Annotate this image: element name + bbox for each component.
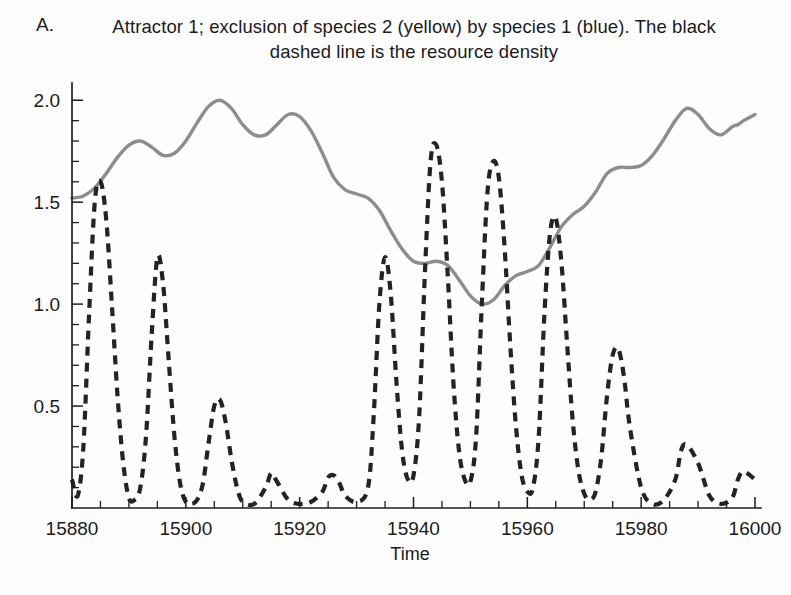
y-tick-label: 1.0 [34, 294, 60, 315]
species1-density-solid-line-0 [72, 100, 738, 304]
series-layer [72, 100, 755, 505]
tick-label-layer: 0.51.01.52.01588015900159201594015960159… [34, 90, 782, 539]
x-tick-label: 15880 [46, 518, 99, 539]
x-tick-label: 16000 [729, 518, 782, 539]
y-tick-label: 1.5 [34, 192, 60, 213]
resource-density-dashed-line-2 [72, 143, 755, 505]
x-tick-label: 15940 [387, 518, 440, 539]
y-tick-label: 0.5 [34, 396, 60, 417]
x-tick-label: 15920 [273, 518, 326, 539]
species1-density-solid-line-1 [738, 115, 755, 125]
x-tick-label: 15980 [615, 518, 668, 539]
chart-plot-area: 0.51.01.52.01588015900159201594015960159… [0, 0, 791, 595]
figure-panel-a: A. Attractor 1; exclusion of species 2 (… [0, 0, 791, 595]
x-tick-label: 15960 [501, 518, 554, 539]
x-axis-title: Time [390, 544, 429, 564]
x-tick-label: 15900 [159, 518, 212, 539]
y-tick-label: 2.0 [34, 90, 60, 111]
